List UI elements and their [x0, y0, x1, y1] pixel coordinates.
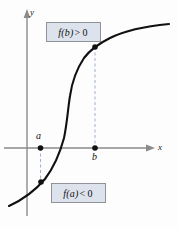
callout-f-of-b-positive: f(b) > 0 [46, 22, 101, 42]
y-axis-label: y [30, 8, 34, 17]
callout-fa-value: 0 [86, 188, 93, 199]
callout-fb-function: f(b) [58, 27, 73, 38]
x-axis-arrowhead [146, 145, 155, 152]
callout-fa-operator: < [79, 188, 87, 199]
marker-f-of-b [92, 44, 98, 50]
point-label-b: b [92, 152, 97, 162]
callout-fa-function: f(a) [63, 188, 78, 199]
callout-f-of-a-negative: f(a) < 0 [51, 183, 106, 203]
marker-b-on-axis [92, 145, 98, 151]
function-sign-change-figure: y x a b f(b) > 0 f(a) < 0 [0, 0, 178, 228]
callout-fb-value: 0 [81, 27, 88, 38]
function-curve [9, 24, 169, 206]
callout-fb-operator: > [74, 27, 82, 38]
point-label-a: a [36, 131, 41, 141]
x-axis-label: x [158, 143, 162, 152]
marker-a-on-axis [38, 145, 44, 151]
marker-f-of-a [38, 179, 44, 185]
